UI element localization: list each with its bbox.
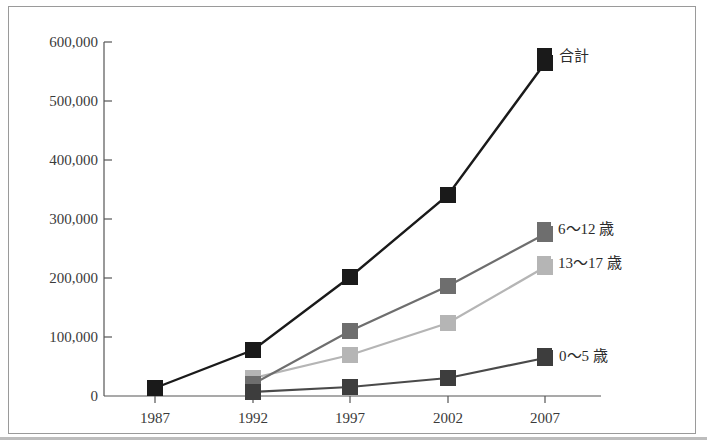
data-point-age-0-5-2002 (440, 370, 456, 386)
legend-swatch-total (537, 48, 552, 63)
y-tick-label-600000: 600,000 (49, 34, 98, 50)
legend-swatch-age-0-5 (537, 348, 552, 363)
legend-label-total: 合計 (559, 48, 589, 64)
legend-item-age-0-5: 0～5 歳 (537, 348, 608, 364)
x-tick-label-1992: 1992 (238, 410, 268, 426)
legend-item-age-13-17: 13～17 歳 (537, 255, 622, 271)
data-point-age-0-5-1992 (245, 384, 261, 400)
series-age-6-12 (245, 226, 553, 392)
y-tick-label-0: 0 (91, 388, 99, 404)
data-point-total-1997 (342, 269, 358, 285)
legend-item-age-6-12: 6～12 歳 (537, 221, 614, 237)
data-point-age-13-17-1997 (342, 347, 358, 363)
legend-label-age-6-12: 6～12 歳 (558, 221, 614, 237)
data-point-age-6-12-2002 (440, 278, 456, 294)
legend-item-total: 合計 (537, 48, 589, 64)
series-total (147, 55, 553, 396)
chart-figure: 600,000 500,000 400,000 300,000 200,000 … (0, 0, 707, 448)
legend: 合計 6～12 歳 13～17 歳 0～5 歳 (537, 48, 622, 364)
y-tick-label-400000: 400,000 (49, 152, 98, 168)
y-tick-label-300000: 300,000 (49, 211, 98, 227)
x-tick-label-2007: 2007 (530, 410, 561, 426)
series-line-age-6-12 (253, 234, 545, 384)
data-point-age-13-17-2002 (440, 315, 456, 331)
x-axis (104, 396, 601, 403)
x-tick-label-1997: 1997 (335, 410, 366, 426)
legend-swatch-age-13-17 (537, 256, 551, 270)
series-line-age-0-5 (253, 358, 545, 392)
series-line-age-13-17 (253, 267, 545, 378)
y-tick-label-200000: 200,000 (49, 270, 98, 286)
y-tick-label-100000: 100,000 (49, 329, 98, 345)
data-point-age-6-12-1997 (342, 323, 358, 339)
legend-label-age-0-5: 0～5 歳 (559, 348, 608, 364)
data-point-total-1987 (147, 380, 163, 396)
line-chart-canvas: 600,000 500,000 400,000 300,000 200,000 … (0, 0, 707, 448)
x-tick-label-1987: 1987 (140, 410, 171, 426)
data-point-total-1992 (245, 342, 261, 358)
series-line-total (155, 63, 545, 388)
data-point-total-2002 (440, 187, 456, 203)
x-tick-label-2002: 2002 (433, 410, 463, 426)
y-tick-label-500000: 500,000 (49, 93, 98, 109)
legend-label-age-13-17: 13～17 歳 (558, 255, 622, 271)
y-axis (104, 42, 112, 396)
series-age-0-5 (245, 350, 553, 400)
legend-swatch-age-6-12 (537, 222, 551, 236)
data-point-age-0-5-1997 (342, 379, 358, 395)
